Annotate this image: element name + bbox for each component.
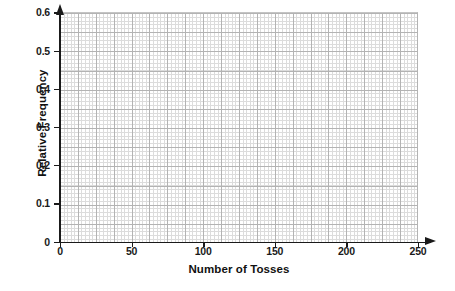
x-tick-label: 50 xyxy=(110,245,154,257)
y-tick-mark xyxy=(54,89,60,90)
x-axis-line xyxy=(59,242,431,244)
chart-figure: 0 0.1 0.2 0.3 0.4 0.5 0.6 0 50 100 150 2… xyxy=(0,0,455,291)
y-tick-mark xyxy=(54,51,60,52)
y-axis-title: Relative Frequency xyxy=(36,8,48,238)
y-tick-mark xyxy=(54,203,60,204)
x-axis-arrow-icon xyxy=(425,237,436,245)
y-tick-mark xyxy=(54,127,60,128)
x-tick-label: 100 xyxy=(181,245,225,257)
x-tick-label: 0 xyxy=(38,245,82,257)
x-tick-label: 200 xyxy=(324,245,368,257)
y-tick-mark xyxy=(54,165,60,166)
x-tick-label: 250 xyxy=(396,245,440,257)
y-tick-mark xyxy=(54,12,60,13)
x-tick-label: 150 xyxy=(253,245,297,257)
x-axis-title: Number of Tosses xyxy=(60,263,418,275)
plot-area-grid xyxy=(60,12,418,242)
